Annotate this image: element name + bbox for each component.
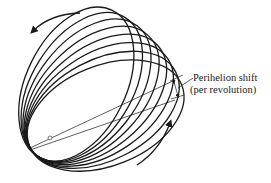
orbit-ellipse	[1, 8, 191, 183]
orbits	[0, 0, 200, 183]
annotation-per-revolution: (per revolution)	[190, 84, 256, 95]
arrow-top-left-icon	[33, 13, 80, 31]
focus-point	[48, 136, 52, 140]
major-axis-line	[30, 100, 175, 150]
orbit-ellipse	[0, 1, 185, 183]
annotation-perihelion-shift: Perihelion shift	[193, 72, 257, 83]
